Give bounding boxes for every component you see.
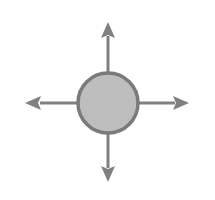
center-circle: [78, 73, 138, 133]
diagram-canvas: [0, 0, 215, 200]
arrow-right-icon: [139, 96, 189, 110]
arrow-left-icon: [25, 96, 77, 110]
arrow-down-icon: [101, 134, 115, 182]
radial-arrows-diagram: [0, 0, 215, 200]
arrow-up-icon: [101, 22, 115, 72]
